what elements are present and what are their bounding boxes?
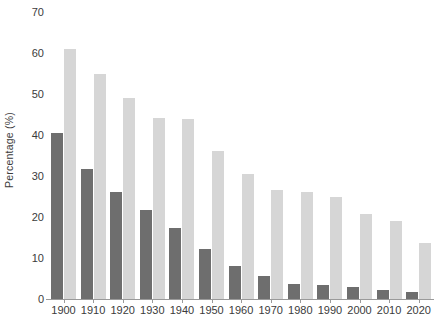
x-tick-mark [64, 299, 65, 303]
bar [301, 192, 313, 299]
x-tick-label: 1940 [170, 304, 194, 316]
y-tick-label: 40 [20, 129, 44, 141]
bar [258, 276, 270, 299]
bar-group [406, 12, 431, 299]
x-tick-mark [123, 299, 124, 303]
bar [317, 285, 329, 299]
bar [360, 214, 372, 299]
bar-group [169, 12, 194, 299]
x-tick-mark [212, 299, 213, 303]
bar-group [258, 12, 283, 299]
x-tick-mark [182, 299, 183, 303]
bar [419, 243, 431, 299]
bar-group [377, 12, 402, 299]
y-tick-label: 20 [20, 211, 44, 223]
bar [123, 98, 135, 299]
bar-group [110, 12, 135, 299]
y-tick-label: 70 [20, 6, 44, 18]
bar-group [81, 12, 106, 299]
bar [288, 284, 300, 299]
x-tick-label: 1980 [288, 304, 312, 316]
bar [212, 151, 224, 299]
bar [271, 190, 283, 299]
bar [390, 221, 402, 299]
y-tick-label: 30 [20, 170, 44, 182]
x-tick-label: 1990 [318, 304, 342, 316]
bar [140, 210, 152, 299]
bar [242, 174, 254, 299]
bar-group [317, 12, 342, 299]
bar [51, 133, 63, 299]
x-tick-mark [271, 299, 272, 303]
bar [182, 119, 194, 299]
x-tick-label: 2000 [347, 304, 371, 316]
x-tick-label: 1910 [81, 304, 105, 316]
bar [81, 169, 93, 299]
bar [199, 249, 211, 299]
bar [330, 197, 342, 299]
x-tick-mark [330, 299, 331, 303]
bar [229, 266, 241, 299]
bar-chart: Percentage (%) 010203040506070 190019101… [0, 0, 438, 324]
x-tick-label: 1950 [199, 304, 223, 316]
bar [406, 292, 418, 299]
x-tick-mark [241, 299, 242, 303]
y-tick-label: 10 [20, 252, 44, 264]
bar [94, 74, 106, 299]
bar [377, 290, 389, 299]
x-axis-line [46, 299, 434, 300]
x-tick-label: 2020 [406, 304, 430, 316]
bar-group [51, 12, 76, 299]
plot-area [48, 12, 432, 299]
y-tick-label: 60 [20, 47, 44, 59]
bar [347, 287, 359, 299]
x-tick-mark [300, 299, 301, 303]
bar [153, 118, 165, 299]
x-tick-label: 1970 [258, 304, 282, 316]
bar [64, 49, 76, 299]
y-axis-title-label: Percentage (%) [3, 112, 15, 188]
bar [110, 192, 122, 299]
bar [169, 228, 181, 299]
x-tick-mark [360, 299, 361, 303]
bar-group [199, 12, 224, 299]
x-tick-label: 2010 [377, 304, 401, 316]
y-axis-title: Percentage (%) [0, 0, 18, 300]
y-tick-label: 0 [20, 293, 44, 305]
bar-group [288, 12, 313, 299]
x-tick-label: 1960 [229, 304, 253, 316]
x-tick-mark [419, 299, 420, 303]
y-tick-label: 50 [20, 88, 44, 100]
bar-group [140, 12, 165, 299]
x-tick-mark [93, 299, 94, 303]
bar-group [229, 12, 254, 299]
x-tick-mark [152, 299, 153, 303]
x-tick-label: 1930 [140, 304, 164, 316]
bar-group [347, 12, 372, 299]
x-tick-label: 1920 [110, 304, 134, 316]
x-tick-label: 1900 [51, 304, 75, 316]
x-tick-mark [389, 299, 390, 303]
